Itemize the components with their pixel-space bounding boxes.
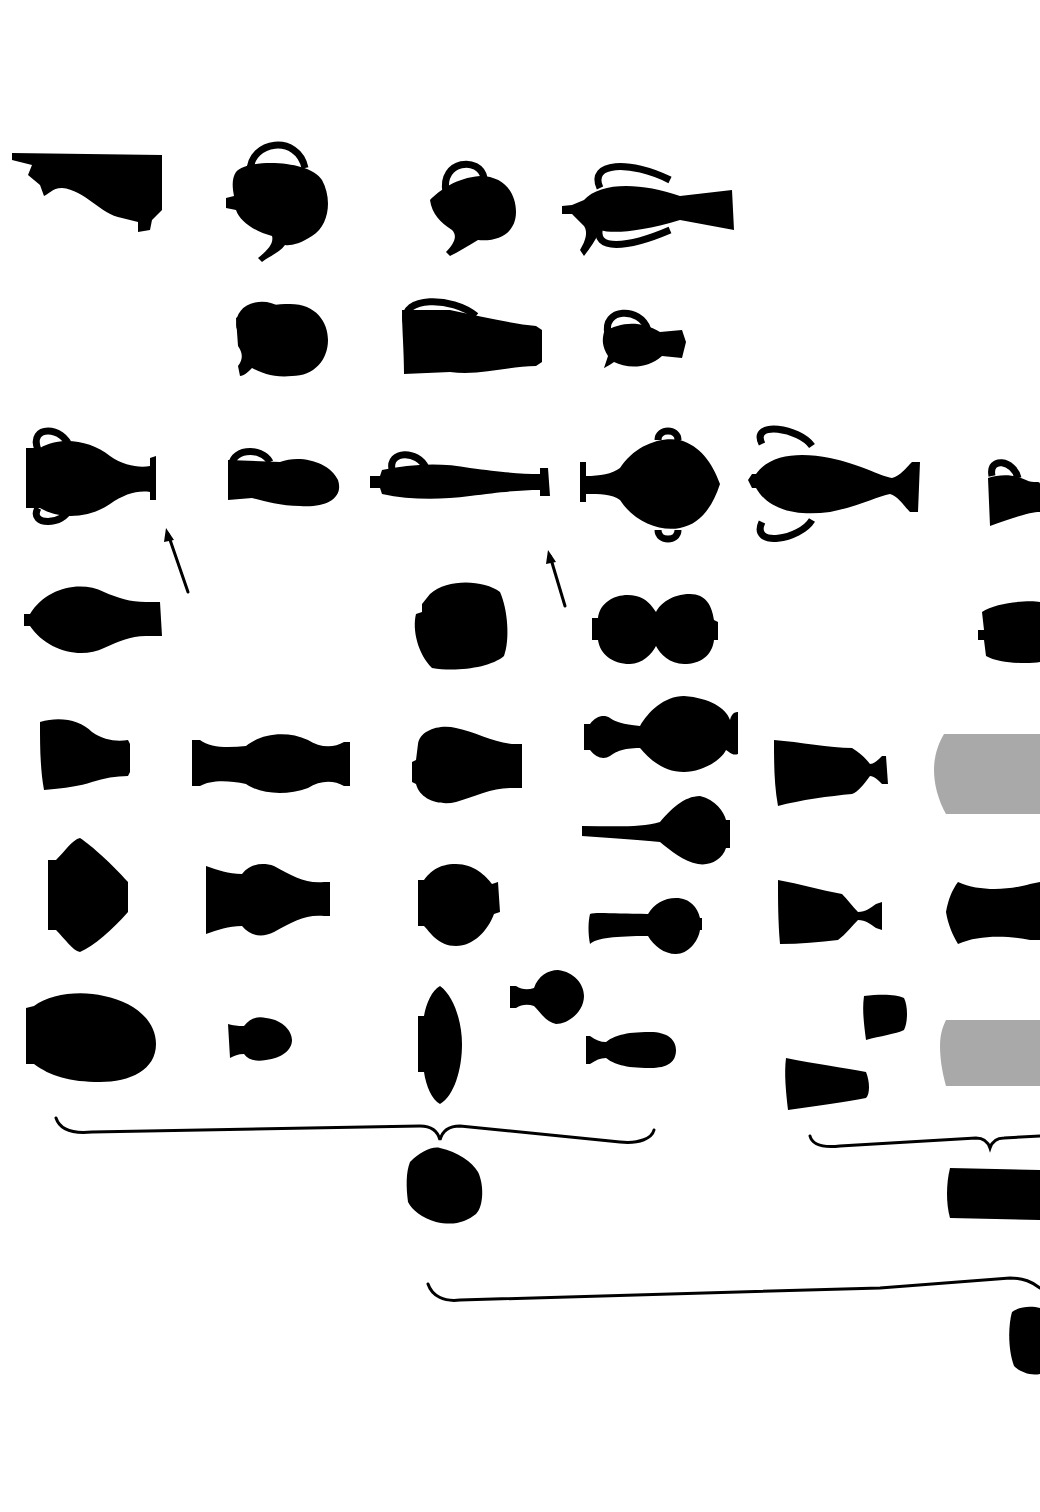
- ovoid-jar-icon: [26, 993, 156, 1082]
- round-jar-icon: [415, 583, 508, 670]
- pear-vase-icon: [412, 727, 522, 803]
- long-jug-icon: [402, 302, 542, 374]
- grouping-brace: [428, 1278, 1040, 1300]
- small-cup-icon: [988, 463, 1040, 526]
- small-beaker-icon: [863, 995, 907, 1040]
- footed-beaker-icon: [774, 740, 888, 806]
- round-jug-icon: [236, 304, 328, 376]
- goblet-icon: [778, 880, 882, 944]
- grey-placeholder-icon: [940, 1020, 1040, 1086]
- conical-beaker-icon: [785, 1058, 869, 1110]
- baluster-vase-icon: [192, 734, 350, 793]
- amphora-icon: [26, 431, 156, 522]
- small-jug-icon: [603, 313, 686, 368]
- double-gourd-icon: [592, 594, 718, 664]
- ovoid-bottle-icon: [24, 587, 162, 654]
- spindle-bottle-icon: [589, 898, 703, 954]
- grey-placeholder-icon: [934, 734, 1040, 814]
- slender-flask-icon: [370, 455, 550, 499]
- lidded-two-handled-jar-icon: [580, 431, 720, 539]
- two-handled-amphora-icon: [748, 429, 920, 538]
- globular-vase-icon: [418, 864, 500, 946]
- long-neck-bottle-icon: [584, 696, 738, 772]
- cut-off-jar-icon: [978, 601, 1040, 663]
- teapot-icon: [226, 145, 328, 262]
- lenticular-jar-icon: [418, 986, 462, 1104]
- carinated-jar-icon: [48, 838, 128, 952]
- spouted-jug-icon: [430, 164, 516, 256]
- grouping-brace: [56, 1118, 654, 1142]
- grouping-brace: [810, 1136, 1040, 1148]
- vessel-typology-plate: [0, 0, 1040, 1512]
- jug-icon: [228, 452, 339, 507]
- concave-jar-icon: [946, 882, 1040, 944]
- cylindrical-jar-icon: [947, 1168, 1040, 1220]
- arrow-up-left-icon: [164, 528, 188, 592]
- oval-jar-icon: [1009, 1307, 1040, 1375]
- short-vase-icon: [40, 719, 130, 790]
- alabastron-icon: [586, 1032, 676, 1068]
- spindle-bottle-icon: [582, 796, 730, 864]
- arrow-up-left-icon: [546, 550, 565, 606]
- small-squat-jar-icon: [228, 1017, 292, 1060]
- small-flask-icon: [510, 970, 584, 1024]
- rounded-jar-icon: [407, 1148, 483, 1224]
- ewer-spout-fragment-icon: [12, 153, 162, 232]
- vase-icon: [206, 864, 330, 935]
- two-handled-spouted-ewer-icon: [562, 167, 734, 256]
